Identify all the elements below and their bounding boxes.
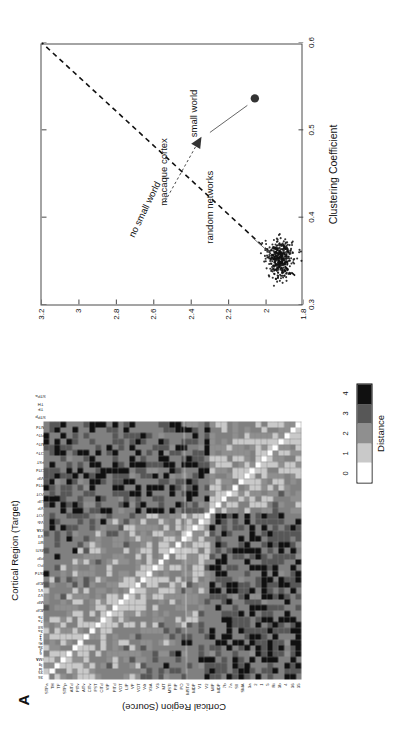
source-tick-label: VOT (117, 681, 123, 692)
panel-b-y-tick-label: 2.6 (149, 308, 158, 319)
colorbar-tick: 2 (340, 423, 354, 443)
colorbar-swatch (357, 404, 371, 424)
target-tick-label: TH (37, 401, 43, 405)
panel-b-y-tick-label: 3.2 (37, 308, 46, 319)
source-tick-label: 7b (221, 681, 227, 688)
target-tick-label: 7b (38, 614, 43, 618)
source-tick-label: SII (233, 681, 239, 688)
target-tick-label: PIP (37, 555, 44, 559)
colorbar-tick: 0 (340, 463, 354, 483)
source-tick-label: Ri (270, 681, 276, 687)
figure-canvas: A Cortical Region (Target) Cortical Regi… (0, 0, 410, 735)
target-tick-label: V1 (37, 588, 42, 592)
target-tick-label: LIP (37, 499, 43, 503)
colorbar-title: Distance (374, 383, 385, 483)
panel-a-x-axis-title: Cortical Region (Target) (8, 421, 19, 679)
panel-a-matrix-container (43, 421, 301, 679)
source-tick-label: MSTd (184, 681, 190, 694)
annotation-random-networks: random networks (203, 170, 214, 243)
target-tick-label: VP (37, 505, 43, 509)
source-tick-label: 3b (276, 681, 282, 688)
source-tick-label: MIP (209, 681, 215, 690)
panel-a-target-tick-labels: 3635IdIgSMA643bRi5123aSII7a7bMDPMIPV2V1M… (22, 421, 42, 679)
source-tick-label: AITv (80, 681, 86, 692)
macaque-cortex-point (250, 94, 258, 102)
colorbar-tick: 3 (340, 403, 354, 423)
source-tick-label: V3A (147, 681, 153, 691)
panel-b-x-tick-label: 0.5 (306, 124, 315, 135)
source-tick-label: SMA (240, 681, 246, 692)
panel-b-y-tick-label: 2.8 (111, 308, 120, 319)
panel-b: B Path Length Clustering Coefficient 1.8… (0, 0, 410, 367)
colorbar-swatch (357, 423, 371, 443)
panel-b-y-tick-label: 2 (261, 308, 270, 312)
random-networks-cloud (259, 233, 302, 287)
source-tick-label: MDP (190, 681, 196, 692)
source-tick-label: PIP (172, 681, 178, 690)
source-tick-label: TF (55, 681, 61, 688)
target-tick-label: Ig (38, 662, 42, 666)
source-tick-label: V1 (197, 681, 203, 688)
colorbar-tick: 1 (340, 443, 354, 463)
target-tick-label: TF (37, 407, 42, 411)
colorbar-swatch (357, 384, 371, 404)
panel-a-source-tick-labels: STPaTHTFSTPpAITdPITvAITvCITvFSTCITdVIPPI… (43, 681, 301, 721)
colorbar-gradient (356, 383, 372, 483)
target-tick-label: PO (37, 561, 43, 565)
panel-b-x-tick-label: 0.6 (306, 36, 315, 47)
target-tick-label: V4t (37, 520, 43, 524)
source-tick-label: VP (129, 681, 135, 689)
source-tick-label: 35 (295, 681, 301, 688)
colorbar-swatch (357, 443, 371, 463)
source-tick-label: 1 (258, 681, 264, 685)
macaque-cortex-leader-line (209, 105, 246, 132)
panel-a-letter: A (14, 694, 31, 705)
target-tick-label: SII (37, 624, 42, 628)
source-tick-label: CITd (98, 681, 104, 692)
panel-b-y-tick-label: 2.4 (186, 308, 195, 319)
source-tick-label: 7a (227, 681, 233, 688)
figure-page: A Cortical Region (Target) Cortical Regi… (0, 0, 410, 735)
colorbar-tick-labels: 01234 (340, 383, 354, 483)
source-tick-label: PO (178, 681, 184, 689)
source-tick-label: 36 (289, 681, 295, 688)
annotation-macaque-cortex: macaque cortex (157, 138, 168, 206)
source-tick-label: MT (160, 681, 166, 689)
source-tick-label: LIP (123, 681, 129, 689)
target-tick-label: MIP (36, 599, 43, 603)
panel-b-y-tick-label: 2.2 (224, 308, 233, 319)
panel-b-x-tick-label: 0.3 (306, 298, 315, 309)
panel-b-x-tick-label: 0.4 (306, 211, 315, 222)
source-tick-label: AITd (68, 681, 74, 692)
panel-b-x-axis-title: Clustering Coefficient (326, 43, 338, 305)
target-tick-label: STPp (35, 415, 45, 419)
source-tick-label: PITv (74, 681, 80, 692)
source-tick-label: STPa (43, 681, 49, 693)
source-tick-label: 4 (282, 681, 288, 685)
source-tick-label: CITv (86, 681, 92, 692)
target-tick-label: MT (37, 539, 43, 543)
colorbar-tick: 4 (340, 383, 354, 403)
target-tick-label: V2 (37, 593, 42, 597)
small-world-arrow-head (191, 136, 201, 148)
source-tick-label: V4t (141, 681, 147, 689)
source-tick-label: 3a (246, 681, 252, 688)
colorbar-swatch (357, 462, 371, 482)
source-tick-label: 2 (252, 681, 258, 685)
source-tick-label: VIP (104, 681, 110, 690)
source-tick-label: 5 (264, 681, 270, 685)
source-tick-label: STPp (61, 681, 67, 693)
panel-b-y-tick-label: 3 (74, 308, 83, 312)
source-tick-label: MSTl (166, 681, 172, 693)
source-tick-label: MDP (215, 681, 221, 692)
scatter-plot-svg (41, 42, 303, 304)
scatter-plot-area: 1.822.22.42.62.833.20.30.40.50.6macaque … (40, 43, 302, 305)
target-tick-label: V3 (37, 533, 42, 537)
source-tick-label: FST (92, 681, 98, 691)
connectivity-distance-matrix (43, 421, 301, 679)
target-tick-label: VIP (37, 475, 44, 479)
panel-a: A Cortical Region (Target) Cortical Regi… (0, 367, 410, 735)
source-tick-label: TH (49, 681, 55, 689)
annotation-small-world: small world (187, 89, 198, 137)
source-tick-label: PITd (111, 681, 117, 692)
